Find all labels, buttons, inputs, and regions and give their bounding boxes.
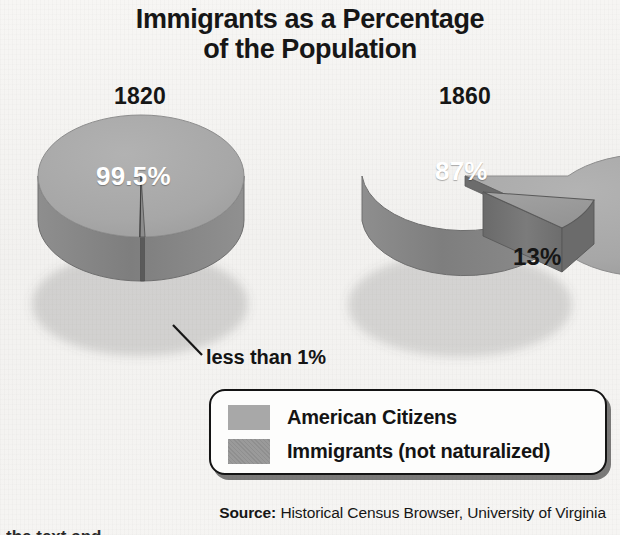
source-prefix: Source: [219,504,280,521]
source-line: Source: Historical Census Browser, Unive… [0,504,606,522]
legend-label-american-citizens: American Citizens [287,406,457,429]
callout-label: less than 1% [206,346,326,369]
chart-title-line-2: of the Population [0,34,620,64]
chart-title-line-1: Immigrants as a Percentage [0,4,620,34]
pie-1860-immigrants-value: 13% [513,243,562,271]
legend-swatch-immigrants [228,439,270,464]
pie-1820-immigrant-side-wall [141,237,145,281]
year-label-1860: 1860 [405,83,525,110]
pie-chart-1860 [340,110,600,365]
pie-1860-citizens-value: 87% [435,156,488,187]
legend-label-immigrants: Immigrants (not naturalized) [287,440,550,463]
year-label-1820: 1820 [80,83,200,110]
legend-swatch-american-citizens [228,405,270,430]
pie-1820-citizens-value: 99.5% [96,161,171,192]
legend-item-american-citizens: American Citizens [228,400,605,434]
chart-figure: Immigrants as a Percentage of the Popula… [0,0,620,535]
legend-item-immigrants: Immigrants (not naturalized) [228,434,605,468]
chart-title: Immigrants as a Percentage of the Popula… [0,4,620,64]
cropped-bleed-text: the text and [6,528,101,535]
source-text: Historical Census Browser, University of… [280,504,606,521]
chart-legend: American Citizens Immigrants (not natura… [209,389,607,475]
pie-chart-1820 [18,112,268,362]
